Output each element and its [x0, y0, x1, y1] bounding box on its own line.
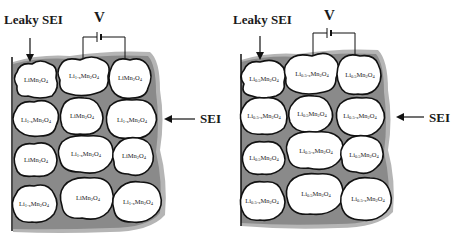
sei-label: SEI — [429, 110, 450, 126]
mn-symbol: Mn — [135, 198, 144, 205]
particle-formula-label: Li0.5-xMn2O4 — [295, 70, 328, 78]
o-subscript: 4 — [99, 153, 101, 158]
mn-symbol: Mn — [82, 194, 91, 201]
o-subscript: 4 — [276, 200, 278, 205]
mn-symbol: Mn — [31, 200, 40, 207]
o-subscript: 4 — [46, 79, 48, 84]
o-subscript: 4 — [382, 198, 384, 203]
particle-formula-label: Li1-xMn2O4 — [71, 150, 101, 158]
particle-formula-label: LiMn2O4 — [122, 152, 146, 160]
mn-symbol: Mn — [83, 150, 92, 157]
particle-formula-label: LiMn2O4 — [70, 112, 94, 120]
sei-arrow-icon — [396, 113, 424, 121]
particle-formula-label: LiMn2O4 — [118, 74, 142, 82]
voltage-label: V — [324, 7, 335, 24]
li-subscript: 0.5-x — [301, 73, 310, 78]
o-subscript: 4 — [330, 150, 332, 155]
mn-symbol: Mn — [128, 152, 137, 159]
mn-symbol: Mn — [30, 76, 39, 83]
mn-symbol: Mn — [30, 156, 39, 163]
o-subscript: 4 — [325, 113, 327, 118]
particle-formula-label: Li1-xMn2O4 — [69, 72, 99, 80]
particle-formula-label: Li1-xMn2O4 — [21, 116, 51, 124]
particle-formula-label: Li0.5-xMn2O4 — [343, 112, 376, 120]
li-subscript: 0.5-x — [253, 115, 262, 120]
mn-symbol: Mn — [358, 112, 367, 119]
sei-arrow-icon — [164, 115, 195, 123]
o-subscript: 4 — [145, 119, 147, 124]
o-subscript: 4 — [278, 115, 280, 120]
panel-delithiated: Leaky SEI V SEI Li0.5Mn2O4Li0.5-xMn2O4Li… — [228, 0, 455, 241]
particle-formula-label: Li0.5-xMn2O4 — [351, 195, 384, 203]
particle-formula-label: Li0.5-xMn2O4 — [299, 147, 332, 155]
o-subscript: 4 — [144, 155, 146, 160]
o-subscript: 4 — [329, 193, 331, 198]
mn-symbol: Mn — [33, 116, 42, 123]
particle-formula-label: Li0.5-xMn2O4 — [245, 197, 278, 205]
li-subscript: 0.5-x — [357, 198, 366, 203]
leaky-sei-label: Leaky SEI — [233, 12, 292, 28]
mn-symbol: Mn — [366, 195, 375, 202]
mn-symbol: Mn — [314, 147, 323, 154]
leaky-sei-label: Leaky SEI — [4, 12, 63, 28]
sei-label: SEI — [200, 111, 221, 127]
particle-formula-label: Li0.5Mn2O4 — [301, 190, 331, 198]
o-subscript: 4 — [98, 197, 100, 202]
o-subscript: 4 — [49, 119, 51, 124]
particle-formula-label: Li0.5Mn2O4 — [345, 71, 375, 79]
particle-formula-label: Li1-xMn2O4 — [117, 116, 147, 124]
o-subscript: 4 — [277, 157, 279, 162]
mn-symbol: Mn — [260, 197, 269, 204]
particle-formula-label: Li0.5Mn2O4 — [349, 151, 379, 159]
mn-symbol: Mn — [262, 112, 271, 119]
particle-formula-label: Li0.5-xMn2O4 — [247, 112, 280, 120]
o-subscript: 4 — [374, 115, 376, 120]
o-subscript: 4 — [97, 75, 99, 80]
voltage-label: V — [94, 9, 105, 26]
li-subscript: 0.5-x — [305, 150, 314, 155]
mn-symbol: Mn — [124, 74, 133, 81]
particle-formula-label: LiMn2O4 — [24, 156, 48, 164]
o-subscript: 4 — [326, 73, 328, 78]
mn-symbol: Mn — [310, 70, 319, 77]
li-subscript: 0.5-x — [349, 115, 358, 120]
o-subscript: 4 — [140, 77, 142, 82]
o-subscript: 4 — [151, 201, 153, 206]
o-subscript: 4 — [277, 78, 279, 83]
particle-formula-label: Li0.5Mn2O4 — [249, 75, 279, 83]
particle-formula-label: LiMn2O4 — [76, 194, 100, 202]
mn-symbol: Mn — [129, 116, 138, 123]
o-subscript: 4 — [377, 154, 379, 159]
o-subscript: 4 — [373, 74, 375, 79]
panel-lithiated: Leaky SEI V SEI LiMn2O4Li1-xMn2O4LiMn2O4… — [0, 0, 228, 241]
particle-formula-label: LiMn2O4 — [24, 76, 48, 84]
mn-symbol: Mn — [76, 112, 85, 119]
li-subscript: 0.5-x — [251, 200, 260, 205]
o-subscript: 4 — [92, 115, 94, 120]
particle-formula-label: Li0.5Mn2O4 — [297, 110, 327, 118]
o-subscript: 4 — [47, 203, 49, 208]
particle-formula-label: Li0.5Mn2O4 — [249, 154, 279, 162]
particle-formula-label: Li1-xMn2O4 — [123, 198, 153, 206]
o-subscript: 4 — [46, 159, 48, 164]
mn-symbol: Mn — [81, 72, 90, 79]
particle-formula-label: Li1-xMn2O4 — [19, 200, 49, 208]
